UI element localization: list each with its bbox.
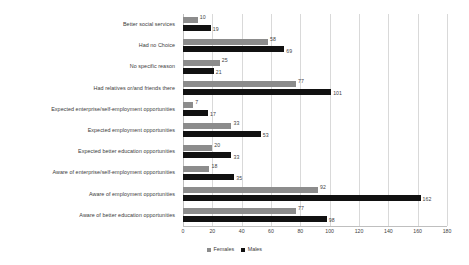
bar-row: 1019 xyxy=(183,14,447,35)
bar-value-label: 69 xyxy=(286,48,292,54)
x-tick-label: 20 xyxy=(209,228,215,235)
bar-males xyxy=(183,152,231,158)
x-tick-label: 80 xyxy=(297,228,303,235)
bar-value-label: 25 xyxy=(222,57,228,63)
bar-row: 77101 xyxy=(183,78,447,99)
bar-value-label: 98 xyxy=(329,217,335,223)
x-tick-label: 60 xyxy=(268,228,274,235)
bar-value-label: 92 xyxy=(320,184,326,190)
category-label: Better social services xyxy=(123,14,175,35)
category-label: Had no Choice xyxy=(139,35,175,56)
bar-value-label: 33 xyxy=(233,154,239,160)
bar-females xyxy=(183,102,193,108)
bar-row: 2033 xyxy=(183,141,447,162)
bar-males xyxy=(183,25,211,31)
x-tick-label: 120 xyxy=(355,228,364,235)
bar-females xyxy=(183,166,209,172)
legend-swatch-icon xyxy=(207,248,211,252)
bar-row: 92162 xyxy=(183,184,447,205)
x-tick-label: 160 xyxy=(413,228,422,235)
bar-value-label: 53 xyxy=(263,132,269,138)
bar-value-label: 10 xyxy=(200,14,206,20)
bar-row: 7798 xyxy=(183,205,447,226)
bar-males xyxy=(183,131,261,137)
bar-row: 2521 xyxy=(183,56,447,77)
bar-row: 3353 xyxy=(183,120,447,141)
bar-value-label: 35 xyxy=(236,175,242,181)
category-label: Aware of better education opportunities xyxy=(79,205,175,226)
legend-label: Males xyxy=(248,246,262,253)
category-label: Had relatives or/and friends there xyxy=(94,78,175,99)
bar-row: 5869 xyxy=(183,35,447,56)
bar-females xyxy=(183,208,296,214)
bar-males xyxy=(183,89,331,95)
legend-item[interactable]: Males xyxy=(241,246,262,253)
bar-males xyxy=(183,46,284,52)
bar-value-label: 58 xyxy=(270,36,276,42)
category-axis-labels: Better social servicesHad no ChoiceNo sp… xyxy=(0,14,179,226)
category-label: Expected employment opportunities xyxy=(88,120,175,141)
gridline-180 xyxy=(447,14,448,226)
bar-value-label: 101 xyxy=(333,90,342,96)
bar-value-label: 18 xyxy=(211,163,217,169)
bar-females xyxy=(183,39,268,45)
bar-chart: Better social servicesHad no ChoiceNo sp… xyxy=(0,0,469,265)
legend-swatch-icon xyxy=(241,248,245,252)
category-label: Expected enterprise/self-employment oppo… xyxy=(51,99,175,120)
x-tick-label: 180 xyxy=(443,228,452,235)
bar-males xyxy=(183,110,208,116)
category-label: Aware of enterprise/self-employment oppo… xyxy=(52,162,175,183)
bar-males xyxy=(183,174,234,180)
bar-males xyxy=(183,216,327,222)
legend-item[interactable]: Females xyxy=(207,246,234,253)
bar-value-label: 20 xyxy=(214,142,220,148)
bar-males xyxy=(183,68,214,74)
bar-females xyxy=(183,60,220,66)
bar-rows: 1019586925217710171733532033183592162779… xyxy=(183,14,447,226)
bar-females xyxy=(183,81,296,87)
bar-males xyxy=(183,195,421,201)
category-label: No specific reason xyxy=(130,56,175,77)
x-tick-label: 100 xyxy=(325,228,334,235)
bar-value-label: 7 xyxy=(195,99,198,105)
bar-value-label: 162 xyxy=(423,196,432,202)
x-tick-label: 140 xyxy=(384,228,393,235)
bar-value-label: 21 xyxy=(216,69,222,75)
bar-females xyxy=(183,17,198,23)
bar-females xyxy=(183,187,318,193)
x-axis-line xyxy=(183,226,447,227)
x-tick-label: 0 xyxy=(182,228,185,235)
bar-value-label: 77 xyxy=(298,78,304,84)
bar-row: 1835 xyxy=(183,162,447,183)
bar-females xyxy=(183,123,231,129)
bar-row: 717 xyxy=(183,99,447,120)
category-label: Aware of employment opportunities xyxy=(89,184,175,205)
x-axis-tick-labels: 020406080100120140160180 xyxy=(183,228,447,238)
bar-value-label: 33 xyxy=(233,120,239,126)
bar-value-label: 77 xyxy=(298,205,304,211)
bar-females xyxy=(183,145,212,151)
bar-value-label: 17 xyxy=(210,111,216,117)
bar-value-label: 19 xyxy=(213,26,219,32)
legend-label: Females xyxy=(213,246,234,253)
category-label: Expected better education opportunities xyxy=(78,141,175,162)
plot-area: 1019586925217710171733532033183592162779… xyxy=(183,14,447,226)
chart-legend: FemalesMales xyxy=(0,246,469,253)
x-tick-label: 40 xyxy=(239,228,245,235)
